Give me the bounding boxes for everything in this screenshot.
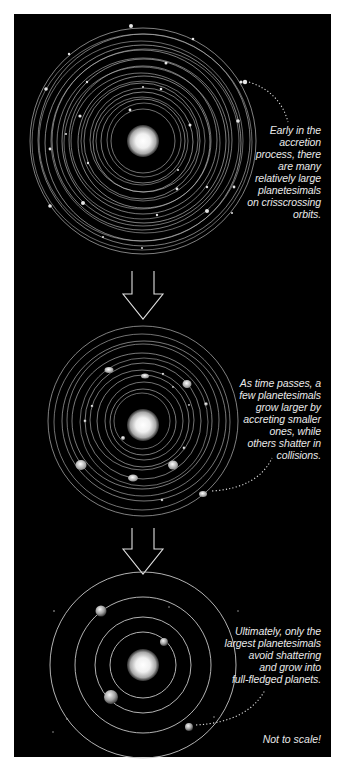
sun-icon xyxy=(127,125,159,157)
stage-1-caption: Early in the accretion process, there ar… xyxy=(247,124,321,220)
planet-icon xyxy=(104,690,118,704)
leader-line-2 xyxy=(212,458,272,491)
scale-note: Not to scale! xyxy=(263,733,321,745)
down-arrow-icon xyxy=(123,271,163,319)
down-arrow-icon xyxy=(123,528,163,574)
sun-icon xyxy=(127,409,159,441)
stage-3-caption: Ultimately, only the largest planetesima… xyxy=(224,625,321,685)
planet-icon xyxy=(185,723,193,731)
sun-icon xyxy=(127,649,159,681)
leader-line-1 xyxy=(249,82,288,122)
planet-icon xyxy=(160,638,168,646)
stage-2-caption: As time passes, a few planetesimals grow… xyxy=(239,377,321,461)
planet-icon xyxy=(96,606,107,617)
